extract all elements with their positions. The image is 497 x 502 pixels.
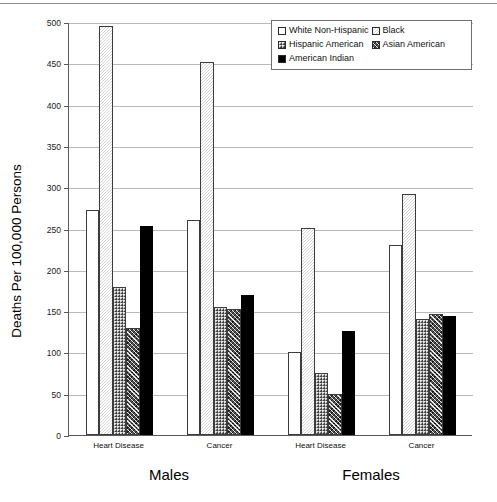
y-axis-tick <box>64 353 69 354</box>
y-axis-tick-label: 350 <box>47 143 61 152</box>
bar-white-non-hispanic <box>288 352 302 435</box>
y-axis-tick-label: 250 <box>47 225 61 234</box>
bar-black <box>99 26 113 435</box>
legend-label: American Indian <box>289 54 354 63</box>
bar-black <box>402 194 416 435</box>
y-axis-tick <box>64 147 69 148</box>
y-axis-tick-label: 200 <box>47 267 61 276</box>
bar-asian-american <box>126 328 140 435</box>
bar-american-indian <box>342 331 356 435</box>
bar-american-indian <box>443 316 457 435</box>
bar-hispanic-american <box>214 307 228 435</box>
legend-swatch-hispanic-american-icon <box>278 41 286 49</box>
bar-american-indian <box>241 295 255 435</box>
bar-american-indian <box>140 226 154 435</box>
legend-swatch-asian-american-icon <box>372 41 380 49</box>
legend-row: American Indian <box>278 54 465 63</box>
legend-row: Hispanic American Asian American <box>278 40 465 49</box>
legend-swatch-white-non-hispanic-icon <box>278 27 286 35</box>
y-axis-tick <box>64 64 69 65</box>
legend-item-white-non-hispanic: White Non-Hispanic <box>278 26 372 35</box>
y-axis-tick <box>64 230 69 231</box>
y-axis-tick-label: 300 <box>47 184 61 193</box>
bar-black <box>301 228 315 435</box>
gridline <box>69 147 473 148</box>
bar-white-non-hispanic <box>389 245 403 435</box>
x-axis-category-label: Heart Disease <box>93 441 144 450</box>
y-axis-tick <box>64 312 69 313</box>
y-axis-tick <box>64 395 69 396</box>
gridline <box>69 106 473 107</box>
y-axis-tick-label: 500 <box>47 19 61 28</box>
y-axis-tick <box>64 271 69 272</box>
legend-label: Black <box>383 26 405 35</box>
legend-row: White Non-Hispanic Black <box>278 26 465 35</box>
legend-item-hispanic-american: Hispanic American <box>278 40 372 49</box>
legend-item-black: Black <box>372 26 466 35</box>
legend-label: Asian American <box>383 40 446 49</box>
y-axis-tick <box>64 188 69 189</box>
y-axis-tick <box>64 436 69 437</box>
legend-label: White Non-Hispanic <box>289 26 369 35</box>
bar-white-non-hispanic <box>86 210 100 435</box>
y-axis-tick-label: 0 <box>56 432 61 441</box>
gridline <box>69 188 473 189</box>
bar-asian-american <box>227 309 241 435</box>
bar-hispanic-american <box>315 373 329 435</box>
y-axis-tick <box>64 23 69 24</box>
legend-item-american-indian: American Indian <box>278 54 465 63</box>
y-axis-tick-label: 450 <box>47 60 61 69</box>
bar-hispanic-american <box>113 287 127 435</box>
x-axis-group-label: Females <box>342 466 400 483</box>
y-axis-tick-label: 400 <box>47 101 61 110</box>
bar-hispanic-american <box>416 319 430 435</box>
bar-white-non-hispanic <box>187 220 201 435</box>
legend-swatch-american-indian-icon <box>278 55 286 63</box>
bar-asian-american <box>429 314 443 435</box>
x-axis-category-label: Heart Disease <box>295 441 346 450</box>
y-axis-title: Deaths Per 100,000 Persons <box>9 101 24 401</box>
bar-chart: Deaths Per 100,000 Persons 0501001502002… <box>0 0 497 502</box>
bar-asian-american <box>328 394 342 435</box>
legend-item-asian-american: Asian American <box>372 40 466 49</box>
legend-swatch-black-icon <box>372 27 380 35</box>
legend-label: Hispanic American <box>289 40 364 49</box>
x-axis-category-label: Cancer <box>409 441 435 450</box>
y-axis-tick-label: 150 <box>47 308 61 317</box>
x-axis-group-label: Males <box>149 466 189 483</box>
bar-black <box>200 62 214 435</box>
chart-legend: White Non-Hispanic Black Hispanic Americ… <box>271 20 472 70</box>
y-axis-tick-label: 100 <box>47 349 61 358</box>
x-axis-category-label: Cancer <box>207 441 233 450</box>
plot-area: 050100150200250300350400450500 <box>68 23 472 436</box>
y-axis-tick <box>64 106 69 107</box>
y-axis-tick-label: 50 <box>52 390 61 399</box>
